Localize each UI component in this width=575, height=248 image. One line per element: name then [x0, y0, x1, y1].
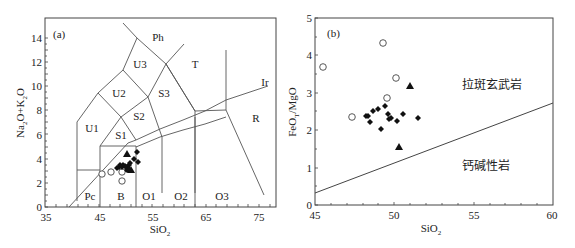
chart-a-field-boundaries [69, 23, 268, 207]
field-label: S2 [133, 110, 145, 122]
circle-marker [384, 95, 391, 102]
circle-marker [99, 171, 105, 177]
circle-marker [380, 40, 387, 47]
chart-a-frame [45, 18, 276, 207]
xtick-label: 65 [201, 211, 213, 223]
chart-b-panel-label: (b) [327, 27, 340, 40]
ytick-label: 4 [307, 49, 313, 61]
field-label: S3 [158, 87, 170, 99]
ytick-label: 1 [307, 162, 313, 174]
ytick-label: 5 [307, 12, 313, 24]
chart-a-xtick-labels: 35 45 55 65 75 [41, 211, 266, 223]
xtick-label: 45 [95, 211, 107, 223]
field-label: S1 [115, 129, 127, 141]
chart-b-diamonds [363, 103, 421, 132]
chart-a-panel-label: (a) [53, 28, 66, 41]
circle-marker [393, 75, 400, 82]
chart-b-open-circles [320, 40, 400, 121]
xtick-label: 75 [254, 211, 266, 223]
triangle-marker [123, 150, 131, 157]
ytick-label: 14 [31, 32, 43, 44]
diamond-marker [134, 149, 140, 155]
chart-a-open-circles [99, 169, 125, 184]
circle-marker [320, 64, 327, 71]
chart-a-field-labels: Ph U3 T U2 S3 Ir U1 S2 R S1 Pc B O1 O2 O… [85, 31, 269, 202]
xtick-label: 55 [469, 209, 481, 221]
ytick-label: 2 [37, 177, 43, 189]
field-label: U3 [133, 58, 147, 70]
ytick-label: 4 [37, 153, 43, 165]
region-label-tholeiite: 拉斑玄武岩 [462, 77, 522, 92]
field-label: Pc [85, 190, 96, 202]
diamond-marker [367, 119, 373, 125]
chart-b-frame [315, 18, 553, 205]
field-label: R [252, 112, 260, 124]
chart-b: 0 1 2 3 4 5 45 50 55 60 SiO2 FeOT/MgO (b… [286, 12, 558, 237]
chart-b-xlabel: SiO2 [421, 222, 442, 237]
chart-b-xtick-labels: 45 50 55 60 [310, 209, 559, 221]
ytick-label: 6 [37, 129, 43, 141]
diamond-marker [400, 111, 406, 117]
chart-a-points [99, 149, 141, 184]
chart-a-ylabel: Na2O+K2O [14, 88, 29, 138]
diamond-marker [382, 103, 388, 109]
figure: 0 2 4 6 8 10 12 14 35 45 55 65 75 SiO2 N… [0, 0, 575, 248]
circle-marker [119, 178, 125, 184]
chart-a-xlabel: SiO2 [150, 223, 171, 238]
field-label: T [192, 58, 199, 70]
chart-b-ytick-labels: 0 1 2 3 4 5 [307, 12, 313, 211]
ytick-label: 10 [31, 80, 43, 92]
field-label: B [117, 190, 124, 202]
field-label: U2 [112, 87, 125, 99]
triangle-marker [406, 82, 414, 89]
field-label: Ir [261, 76, 269, 88]
field-label: U1 [85, 122, 98, 134]
xtick-label: 35 [41, 211, 53, 223]
field-label: O1 [142, 190, 155, 202]
circle-marker [108, 169, 114, 175]
field-label: Ph [152, 31, 164, 43]
chart-b-triangles [395, 82, 414, 150]
ytick-label: 8 [37, 104, 43, 116]
diamond-marker [394, 118, 400, 124]
chart-b-ylabel: FeOT/MgO [286, 87, 301, 137]
circle-marker [349, 114, 356, 121]
chart-a-xticks [56, 204, 270, 207]
ytick-label: 12 [31, 56, 42, 68]
field-label: O3 [215, 190, 229, 202]
chart-b-points [320, 40, 421, 150]
triangle-marker [395, 143, 403, 150]
diamond-marker [378, 126, 384, 132]
field-label: O2 [174, 190, 187, 202]
xtick-label: 60 [547, 209, 559, 221]
xtick-label: 50 [389, 209, 401, 221]
ytick-label: 3 [307, 87, 313, 99]
xtick-label: 45 [310, 209, 322, 221]
chart-a: 0 2 4 6 8 10 12 14 35 45 55 65 75 SiO2 N… [14, 18, 276, 238]
ytick-label: 2 [307, 124, 313, 136]
region-label-calc-alkaline: 钙碱性岩 [462, 158, 510, 173]
diamond-marker [415, 115, 421, 121]
chart-a-ytick-labels: 0 2 4 6 8 10 12 14 [31, 32, 43, 213]
xtick-label: 55 [148, 211, 160, 223]
